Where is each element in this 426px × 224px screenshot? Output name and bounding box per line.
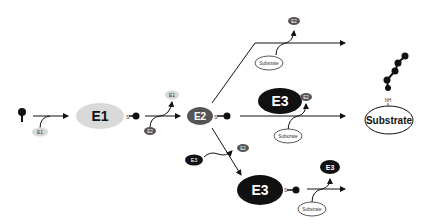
ubiquitin-free-icon: [18, 108, 26, 122]
e2-out-low-node: E2: [237, 144, 249, 152]
thioester-s1-label: S: [126, 114, 130, 120]
e2-in-node: E2: [144, 127, 156, 135]
svg-text:E3: E3: [326, 164, 335, 171]
svg-text:E2: E2: [303, 95, 309, 100]
svg-text:E3: E3: [271, 93, 288, 109]
e3-transfer-arc: [312, 179, 330, 202]
svg-text:Substrate: Substrate: [302, 207, 322, 212]
substrate-product-node: Substrate: [365, 106, 413, 134]
substrate-top-node: Substrate: [255, 56, 283, 70]
thioester-s2-label: S: [214, 114, 218, 120]
e1-out-node: E1: [165, 91, 179, 100]
polyubiquitin-chain-icon: [384, 53, 409, 92]
lower-branch-arc: [204, 151, 232, 157]
e1-in-arc: [40, 116, 50, 128]
svg-text:Substrate: Substrate: [278, 134, 298, 139]
svg-text:E2: E2: [147, 129, 153, 134]
svg-text:E3: E3: [251, 182, 268, 198]
svg-text:Substrate: Substrate: [259, 61, 279, 66]
e3-low-out-node: E3: [320, 160, 340, 174]
ubiquitin-pathway-diagram: E1 E1 S E2 E1 E2 S E2 Substrate E3: [0, 0, 426, 224]
e2-in-e1-out-arc: [150, 102, 172, 128]
ubiquitin-on-e1-icon: [133, 113, 140, 120]
e1-main-node: E1: [76, 103, 124, 129]
e3-low-main-node: E3: [237, 175, 283, 205]
svg-text:E2: E2: [291, 19, 297, 24]
e2-out-mid-node: E2: [300, 93, 312, 101]
e1-in-node: E1: [32, 128, 48, 137]
ubiquitin-on-e2-icon: [224, 113, 231, 120]
svg-text:E1: E1: [91, 108, 108, 124]
svg-text:E3: E3: [191, 157, 198, 163]
svg-text:E1: E1: [169, 92, 175, 98]
e3-low-small-node: E3: [185, 155, 203, 166]
arrow-lower-branch: [212, 128, 241, 175]
ubiquitin-on-e3-icon: [293, 187, 300, 194]
e2-main-node: E2: [187, 107, 213, 125]
amide-nh-label: NH: [385, 98, 392, 103]
e2-out-top-node: E2: [288, 17, 300, 25]
substrate-mid-node: Substrate: [274, 129, 302, 143]
substrate-low-node: Substrate: [298, 202, 326, 216]
svg-text:E2: E2: [194, 111, 207, 122]
svg-text:E1: E1: [37, 129, 43, 135]
e3-mid-node: E3: [258, 88, 302, 114]
svg-text:E2: E2: [240, 146, 246, 151]
svg-text:Substrate: Substrate: [366, 115, 413, 126]
